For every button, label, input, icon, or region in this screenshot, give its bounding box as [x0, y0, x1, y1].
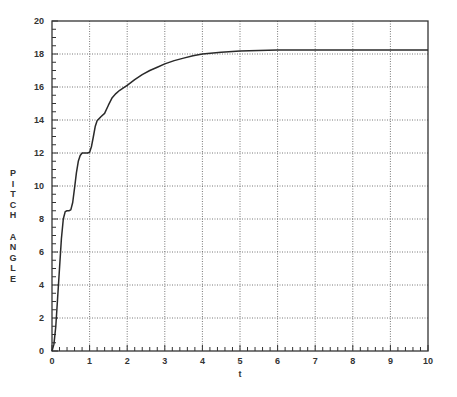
y-axis-title-char: I	[6, 179, 20, 190]
y-tick-label: 0	[39, 346, 44, 356]
x-axis-tick-labels: 012345678910	[49, 356, 433, 366]
y-axis-title-char: A	[6, 232, 20, 243]
y-axis-title-char: P	[6, 168, 20, 179]
y-axis-title-char: H	[6, 210, 20, 221]
x-tick-label: 4	[200, 356, 205, 366]
x-tick-label: 0	[49, 356, 54, 366]
y-tick-label: 14	[34, 115, 44, 125]
y-axis-title-char: G	[6, 253, 20, 264]
x-tick-label: 9	[388, 356, 393, 366]
x-tick-label: 1	[87, 356, 92, 366]
x-tick-label: 10	[423, 356, 433, 366]
y-tick-label: 8	[39, 214, 44, 224]
y-axis-title-char: C	[6, 200, 20, 211]
y-axis-title-char	[6, 221, 20, 232]
y-tick-label: 6	[39, 247, 44, 257]
y-axis-title: PITCH ANGLE	[6, 168, 20, 285]
x-axis-title: t	[239, 369, 242, 379]
y-tick-label: 10	[34, 181, 44, 191]
y-axis-title-char: T	[6, 189, 20, 200]
grid-lines	[52, 21, 428, 351]
y-axis-tick-labels: 02468101214161820	[34, 16, 44, 356]
x-tick-label: 2	[125, 356, 130, 366]
y-axis-title-char: E	[6, 274, 20, 285]
y-tick-label: 2	[39, 313, 44, 323]
x-tick-label: 7	[313, 356, 318, 366]
line-chart: 012345678910 02468101214161820 t	[0, 0, 457, 397]
y-tick-label: 4	[39, 280, 44, 290]
y-tick-label: 12	[34, 148, 44, 158]
x-tick-label: 8	[350, 356, 355, 366]
x-tick-label: 3	[162, 356, 167, 366]
pitch-angle-curve	[52, 50, 428, 351]
x-tick-label: 6	[275, 356, 280, 366]
y-axis-title-char: L	[6, 263, 20, 274]
y-tick-label: 20	[34, 16, 44, 26]
y-tick-label: 18	[34, 49, 44, 59]
x-tick-label: 5	[237, 356, 242, 366]
y-axis-title-char: N	[6, 242, 20, 253]
y-tick-label: 16	[34, 82, 44, 92]
